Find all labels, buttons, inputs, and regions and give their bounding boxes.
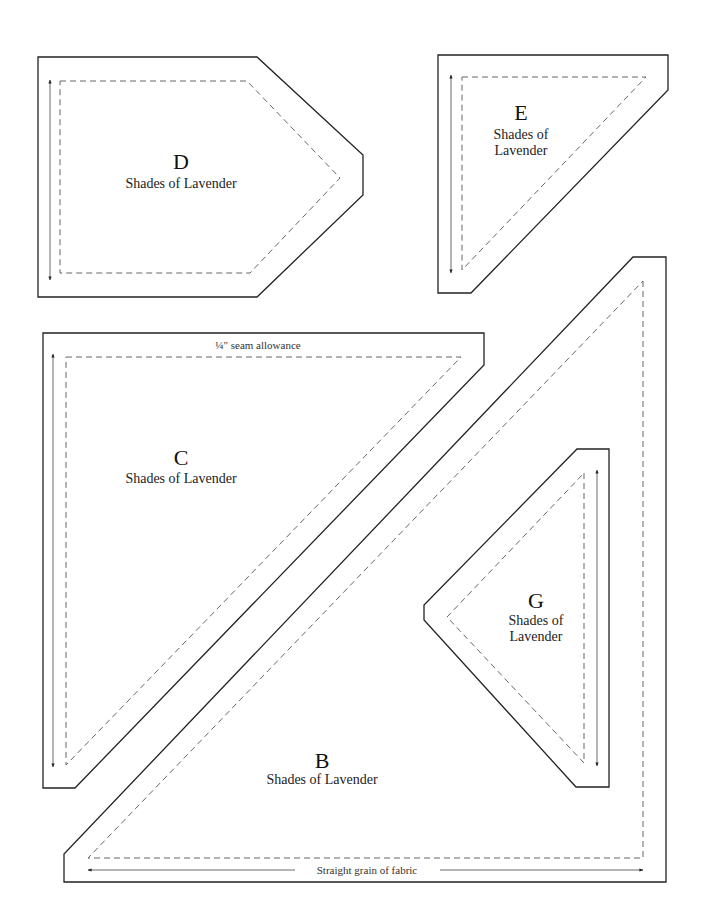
piece-c-fabric: Shades of Lavender <box>125 471 237 486</box>
piece-b-letter: B <box>315 748 330 773</box>
piece-e-fabric-line1: Shades of <box>494 127 549 142</box>
piece-b-fabric: Shades of Lavender <box>266 772 378 787</box>
piece-d: D Shades of Lavender <box>38 57 363 297</box>
piece-e-fabric-line2: Lavender <box>495 143 548 158</box>
piece-d-letter: D <box>173 149 189 174</box>
piece-g-fabric-line1: Shades of <box>509 613 564 628</box>
piece-c-letter: C <box>174 445 189 470</box>
piece-d-fabric: Shades of Lavender <box>125 176 237 191</box>
grain-label: Straight grain of fabric <box>317 864 418 876</box>
piece-g-fabric-line2: Lavender <box>510 629 563 644</box>
quilt-pattern-sheet: Straight grain of fabric B Shades of Lav… <box>0 0 705 915</box>
piece-e-letter: E <box>514 100 527 125</box>
seam-allowance-label: ¼" seam allowance <box>215 339 301 351</box>
piece-g-letter: G <box>528 588 544 613</box>
